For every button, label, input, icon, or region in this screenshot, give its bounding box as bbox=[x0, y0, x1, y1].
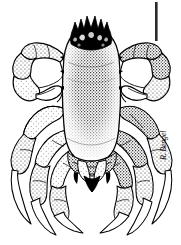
illustration-canvas bbox=[0, 0, 181, 245]
scale-bar bbox=[155, 2, 158, 41]
crustacean-illustration-figure: R. Bengel Squat lobster, dorsal view dor… bbox=[0, 0, 181, 245]
